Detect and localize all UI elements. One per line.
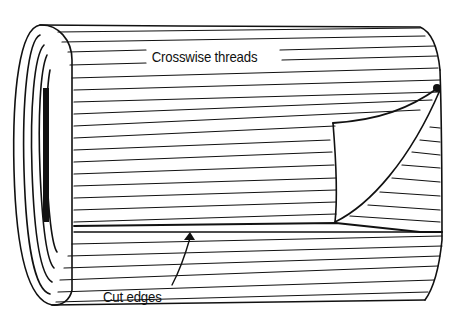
fabric-roll-diagram: Crosswise threads Cut edges xyxy=(0,0,475,329)
crosswise-threads-label: Crosswise threads xyxy=(150,48,259,65)
cut-edges-label: Cut edges xyxy=(103,288,162,305)
roll-core xyxy=(43,88,49,222)
